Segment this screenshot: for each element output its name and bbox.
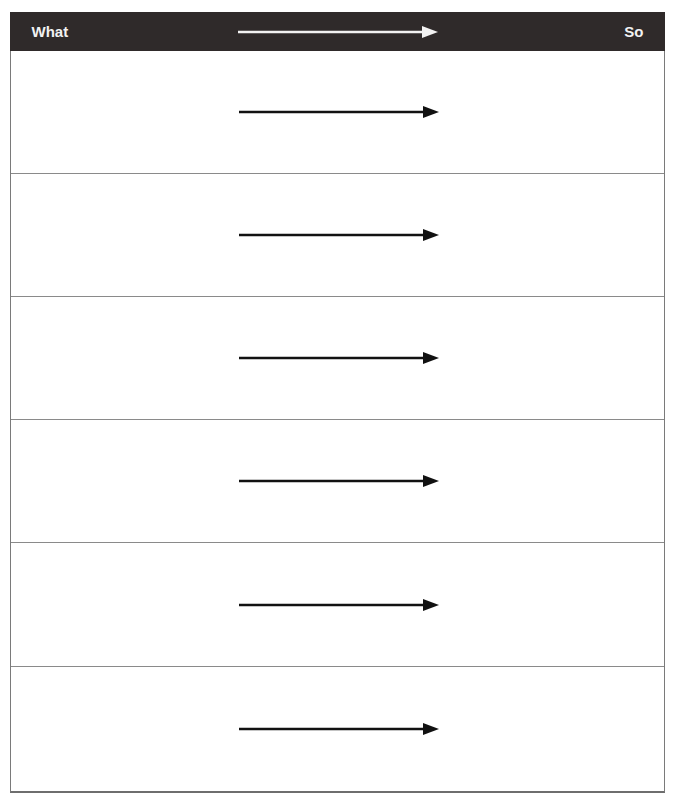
table-row[interactable]	[11, 297, 664, 420]
table-row[interactable]	[11, 667, 664, 791]
right-arrow-icon	[239, 106, 439, 118]
table-row[interactable]	[11, 51, 664, 174]
table-row[interactable]	[11, 543, 664, 667]
right-arrow-icon	[239, 599, 439, 611]
right-arrow-icon	[238, 26, 438, 38]
right-arrow-icon	[239, 723, 439, 735]
header-so-label: So	[624, 23, 643, 40]
table-header: What So	[10, 12, 665, 51]
header-what-label: What	[32, 23, 69, 40]
right-arrow-icon	[239, 229, 439, 241]
table-row[interactable]	[11, 420, 664, 543]
right-arrow-icon	[239, 352, 439, 364]
right-arrow-icon	[239, 475, 439, 487]
table-row[interactable]	[11, 174, 664, 297]
what-so-worksheet: What So	[10, 12, 665, 793]
